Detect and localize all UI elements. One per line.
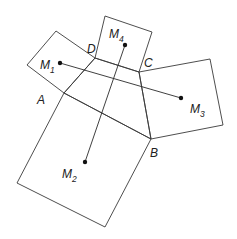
center-point-M1 [58,61,62,65]
center-label-M1: M1 [40,58,55,75]
vertex-label-A: A [36,93,45,107]
center-point-M3 [179,96,183,100]
quadrilateral-ABCD [64,58,151,139]
center-label-M4: M4 [109,27,124,44]
vertex-label-B: B [150,146,158,160]
geometry-diagram: A B C D M1 M2 M3 M4 [0,0,237,239]
segment-M1-M3 [60,63,181,98]
center-point-M2 [83,160,87,164]
vertex-label-C: C [144,56,153,70]
vertex-label-D: D [87,42,96,56]
center-label-M3: M3 [190,102,205,119]
center-label-M2: M2 [62,167,77,184]
square-on-AB [17,93,151,227]
